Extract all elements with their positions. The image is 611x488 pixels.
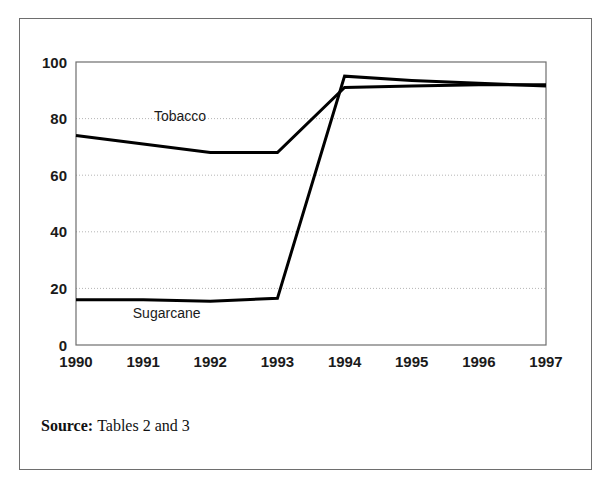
source-label: Source: [41,417,93,434]
source-note: Source:Tables 2 and 3 [41,417,190,435]
source-text: Tables 2 and 3 [97,417,190,434]
figure-frame [19,18,592,470]
